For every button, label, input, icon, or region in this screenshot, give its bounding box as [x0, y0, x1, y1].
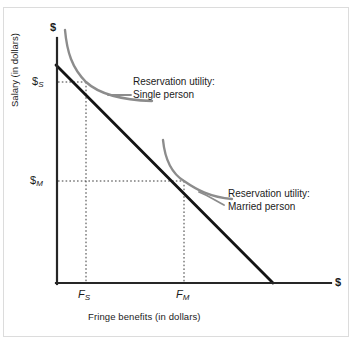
annotation-single-line2: Single person — [133, 89, 215, 102]
y-tick-label-salary-single: $S — [32, 75, 43, 90]
x-tick-label-fringe-single: FS — [78, 288, 90, 303]
x-tick-base-fringe-single: F — [78, 288, 85, 300]
annotation-married-person: Reservation utility: Married person — [228, 188, 310, 213]
y-tick-sub-salary-married: M — [36, 179, 43, 188]
annotation-married-line2: Married person — [228, 201, 310, 214]
x-tick-base-fringe-married: F — [176, 288, 183, 300]
x-axis-dollar-symbol: $ — [335, 276, 341, 290]
x-tick-sub-fringe-married: M — [183, 293, 190, 302]
y-tick-sub-salary-single: S — [38, 80, 43, 89]
figure-container: $ $ $S $M FS FM Reservation utility: Sin… — [0, 0, 354, 343]
annotation-single-person: Reservation utility: Single person — [133, 76, 215, 101]
y-tick-label-salary-married: $M — [30, 174, 43, 189]
y-axis-title-wrapper: Salary (in dollars) — [4, 10, 22, 130]
x-axis-title: Fringe benefits (in dollars) — [88, 311, 201, 323]
guide-lines — [58, 82, 184, 283]
indifference-curve-married — [163, 140, 232, 199]
annotation-single-line1: Reservation utility: — [133, 76, 215, 89]
y-axis-dollar-symbol: $ — [50, 21, 56, 35]
x-tick-label-fringe-married: FM — [176, 288, 189, 303]
y-axis-title: Salary (in dollars) — [9, 33, 20, 107]
x-tick-sub-fringe-single: S — [85, 293, 90, 302]
annotation-married-line1: Reservation utility: — [228, 188, 310, 201]
